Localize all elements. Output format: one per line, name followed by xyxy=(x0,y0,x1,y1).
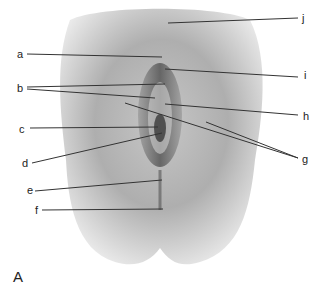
label-i: i xyxy=(304,70,306,81)
diagram-illustration xyxy=(0,0,317,294)
label-h: h xyxy=(303,111,309,122)
panel-letter: A xyxy=(13,268,23,285)
label-f: f xyxy=(35,205,38,216)
label-g: g xyxy=(302,154,308,165)
label-a: a xyxy=(17,49,23,60)
label-c: c xyxy=(19,124,25,135)
label-b: b xyxy=(17,83,23,94)
label-d: d xyxy=(22,158,28,169)
label-e: e xyxy=(27,185,33,196)
label-j: j xyxy=(302,13,304,24)
anatomical-diagram: a b c d e f g h i j A xyxy=(0,0,317,294)
